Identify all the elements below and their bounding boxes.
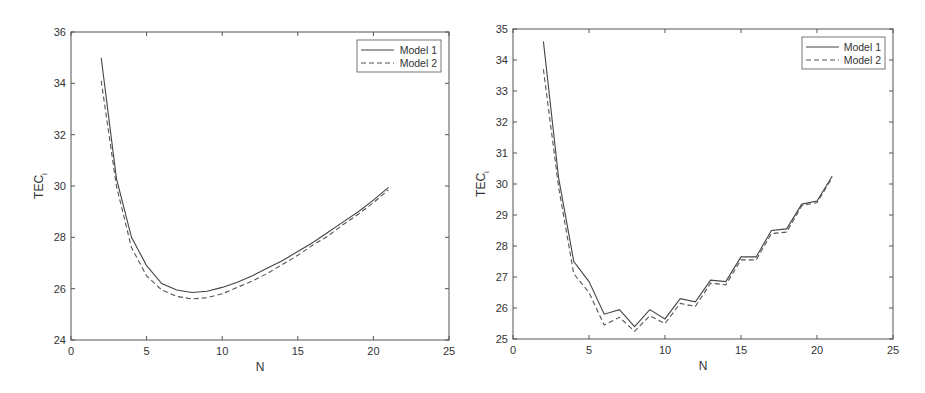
y-axis-label: TECi bbox=[474, 171, 491, 197]
y-tick-label: 35 bbox=[496, 23, 508, 35]
x-tick-label: 20 bbox=[811, 344, 823, 356]
y-tick-label: 33 bbox=[496, 85, 508, 97]
x-tick-label: 25 bbox=[887, 344, 899, 356]
x-tick-label: 0 bbox=[510, 344, 516, 356]
y-tick-label: 34 bbox=[496, 54, 508, 66]
y-tick-label: 30 bbox=[496, 178, 508, 190]
y-tick-label: 29 bbox=[496, 209, 508, 221]
series-line-2 bbox=[543, 69, 832, 331]
x-tick-label: 10 bbox=[659, 344, 671, 356]
legend-label-2: Model 2 bbox=[844, 54, 882, 66]
x-tick-label: 15 bbox=[735, 344, 747, 356]
y-tick-label: 27 bbox=[496, 271, 508, 283]
y-tick-label: 31 bbox=[496, 147, 508, 159]
chart-right: 05101520252526272829303132333435NTECiMod… bbox=[0, 0, 462, 393]
plot-frame bbox=[513, 29, 893, 339]
y-tick-label: 28 bbox=[496, 240, 508, 252]
legend-label-1: Model 1 bbox=[844, 41, 882, 53]
y-tick-label: 25 bbox=[496, 333, 508, 345]
x-tick-label: 5 bbox=[586, 344, 592, 356]
y-tick-label: 26 bbox=[496, 302, 508, 314]
series-line-1 bbox=[543, 41, 832, 326]
x-axis-label: N bbox=[699, 359, 708, 373]
legend: Model 1Model 2 bbox=[802, 37, 885, 69]
chart-right-plot: 05101520252526272829303132333435NTECiMod… bbox=[0, 0, 925, 393]
y-tick-label: 32 bbox=[496, 116, 508, 128]
